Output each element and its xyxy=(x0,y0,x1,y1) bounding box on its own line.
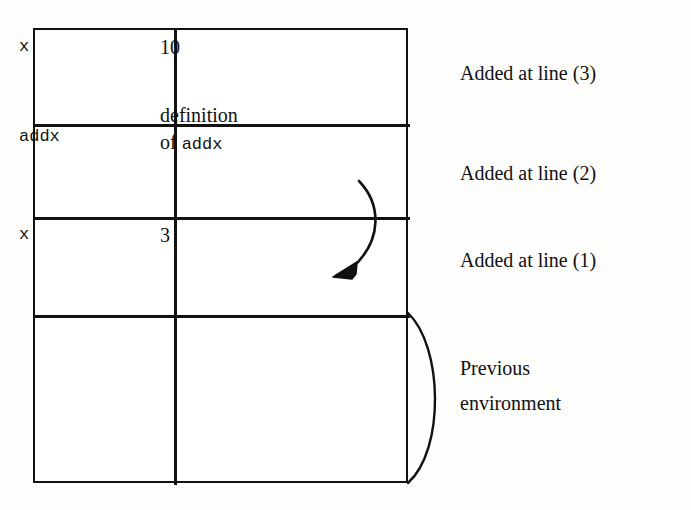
binding-value-row-1: 10 xyxy=(160,28,360,66)
row-divider-3 xyxy=(35,315,410,318)
previous-environment-brace xyxy=(408,313,435,483)
annotation-added-line-2: Added at line (2) xyxy=(460,156,596,191)
binding-value-row-2-line-2: of addx xyxy=(160,129,360,157)
environment-frame xyxy=(33,28,408,483)
binding-name-row-1: x xyxy=(19,28,134,66)
binding-value-row-2-mono: addx xyxy=(182,135,223,154)
binding-value-row-2-line-1: definition xyxy=(160,102,360,129)
binding-name-row-3: x xyxy=(19,215,134,255)
annotation-previous-environment: Previous environment xyxy=(460,351,561,421)
annotation-added-line-1: Added at line (1) xyxy=(460,243,596,278)
binding-value-row-2-prefix: of xyxy=(160,131,182,153)
binding-value-row-3: 3 xyxy=(160,215,360,255)
annotation-added-line-3: Added at line (3) xyxy=(460,56,596,91)
binding-value-row-2: definition of addx xyxy=(160,102,360,174)
binding-name-row-2: addx xyxy=(19,117,134,157)
column-divider xyxy=(174,30,177,485)
diagram-canvas: x 10 addx definition of addx x 3 Added a… xyxy=(0,0,691,510)
